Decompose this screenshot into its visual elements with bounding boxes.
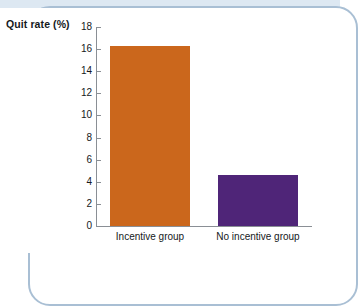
y-axis-tick [96, 93, 101, 94]
y-axis-tick-label: 6 [66, 155, 92, 165]
x-axis-tick-label: No incentive group [204, 231, 312, 242]
y-axis-tick-label: 0 [66, 221, 92, 231]
y-axis-tick-label: 2 [66, 199, 92, 209]
y-axis-tick-label: 12 [66, 88, 92, 98]
y-axis-tick-label: 16 [66, 44, 92, 54]
y-axis-tick [96, 138, 101, 139]
y-axis-tick [96, 226, 101, 227]
bar-incentive-group [110, 46, 190, 226]
y-axis-tick [96, 115, 101, 116]
y-axis-tick-label: 4 [66, 177, 92, 187]
y-axis-tick-label: 18 [66, 22, 92, 32]
y-axis-tick [96, 204, 101, 205]
y-axis-tick-label: 10 [66, 110, 92, 120]
y-axis-tick [96, 160, 101, 161]
y-axis-tick [96, 27, 101, 28]
y-axis-tick [96, 49, 101, 50]
y-axis-line [96, 27, 97, 227]
bar-no-incentive-group [218, 175, 298, 226]
y-axis-title: Quit rate (%) [6, 18, 70, 30]
y-axis-tick-label: 14 [66, 66, 92, 76]
y-axis-tick [96, 182, 101, 183]
y-axis-tick [96, 71, 101, 72]
x-axis-line [96, 226, 312, 227]
y-axis-tick-label: 8 [66, 133, 92, 143]
x-axis-tick-label: Incentive group [96, 231, 204, 242]
